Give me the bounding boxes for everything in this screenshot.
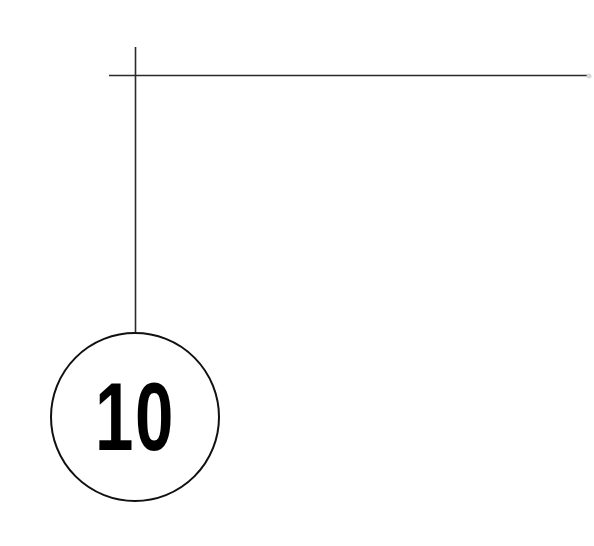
callout-number: 10 — [75, 331, 195, 503]
line-end-dot — [587, 74, 592, 79]
